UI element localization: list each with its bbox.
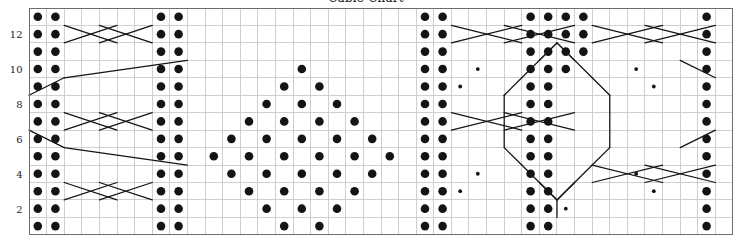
- chart-gridlines: [29, 8, 733, 235]
- row-label-8: 8: [0, 98, 23, 109]
- row-label-10: 10: [0, 64, 23, 75]
- row-label-6: 6: [0, 133, 23, 144]
- row-label-2: 2: [0, 203, 23, 214]
- chart-title: Cable Chart: [0, 0, 732, 5]
- row-label-4: 4: [0, 168, 23, 179]
- chart-canvas: [29, 8, 733, 235]
- row-label-12: 12: [0, 29, 23, 40]
- chart-plot-area: [29, 8, 733, 235]
